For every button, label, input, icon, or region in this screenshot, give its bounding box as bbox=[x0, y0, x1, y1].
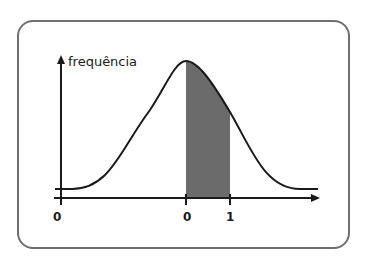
x-tick-origin-label: 0 bbox=[53, 210, 61, 224]
y-axis-arrow-icon bbox=[57, 55, 65, 64]
x-tick-mean-label: 0 bbox=[183, 210, 191, 224]
shaded-region bbox=[186, 61, 230, 198]
x-tick-one-label: 1 bbox=[226, 210, 234, 224]
x-axis-arrow-icon bbox=[311, 194, 320, 202]
normal-curve-diagram: frequência 0 0 1 bbox=[0, 0, 369, 269]
y-axis-label: frequência bbox=[68, 54, 137, 69]
